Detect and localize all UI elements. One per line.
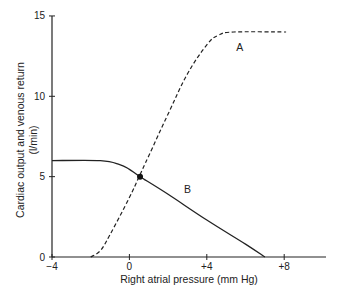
curve-b-venous-return [52, 160, 265, 257]
x-tick-label: +4 [201, 261, 213, 272]
equilibrium-point [137, 174, 143, 180]
x-tick-label: 0 [127, 261, 133, 272]
x-tick-label: +8 [278, 261, 290, 272]
y-axis-unit: (l/min) [27, 125, 39, 154]
x-tick-label: −4 [46, 261, 58, 272]
curve-b-label: B [184, 183, 191, 195]
x-axis-label: Right atrial pressure (mm Hg) [120, 273, 258, 285]
curve-a-cardiac-output [91, 32, 286, 257]
y-tick-label: 15 [34, 10, 46, 21]
curve-a-label: A [236, 41, 243, 53]
chart: 051015 −40+4+8 Right atrial pressure (mm… [0, 0, 338, 302]
y-tick-label: 0 [39, 252, 45, 263]
y-axis-label: Cardiac output and venous return [14, 62, 26, 218]
y-tick-label: 5 [39, 171, 45, 182]
y-tick-label: 10 [34, 91, 46, 102]
